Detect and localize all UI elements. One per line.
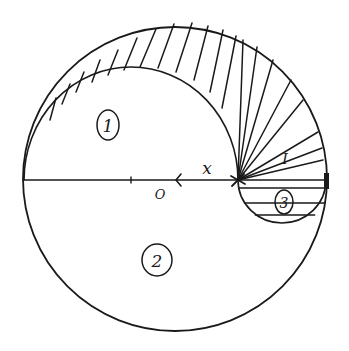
region1-label: 1 xyxy=(103,116,114,136)
right-end-marker xyxy=(324,173,329,189)
hatch-line xyxy=(140,29,156,67)
origin-label: O xyxy=(155,187,166,202)
geometry-diagram: 1 2 3 I x O xyxy=(0,0,349,351)
hatch-line xyxy=(108,50,118,75)
roman-one-label: I xyxy=(281,150,289,168)
hatch-line xyxy=(176,23,192,72)
hatch-line xyxy=(92,60,100,82)
region2-label: 2 xyxy=(151,251,163,271)
hatch-line xyxy=(194,26,208,80)
region3-label: 3 xyxy=(280,195,289,211)
hatch-line xyxy=(50,98,56,120)
hatch-line xyxy=(62,84,70,104)
x-label: x xyxy=(202,158,212,178)
outer-circle xyxy=(23,27,327,331)
hatch-line xyxy=(210,30,223,92)
hatch-line xyxy=(158,24,174,68)
upper-band-hatching xyxy=(50,23,236,120)
hatch-line xyxy=(222,36,236,108)
hatch-line xyxy=(124,38,137,70)
fan-ray xyxy=(238,160,323,180)
